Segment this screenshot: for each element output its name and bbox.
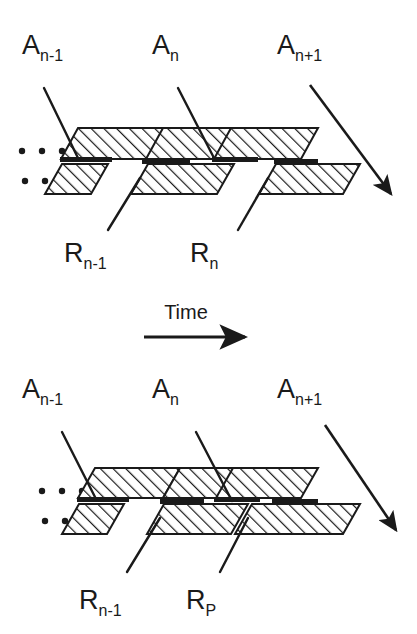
lower-segment-continuous [235,504,360,534]
upper-segment [216,468,318,498]
upper-segments-bottom [78,468,318,498]
label-A-n-plus-1-bottom: An+1 [277,374,322,408]
schematic-diagram: An-1 An An+1 [0,0,417,634]
leader-line-A-n-minus-1 [62,432,96,499]
interface-bar [214,497,260,502]
lower-segment [259,164,360,194]
interface-bar [212,157,258,162]
label-R-n-minus-1-bottom: Rn-1 [79,585,122,619]
interface-bar [272,499,318,504]
lower-segment [147,504,248,534]
interface-bar [142,159,190,164]
lower-segment [131,164,234,194]
upper-segment [214,128,318,159]
interface-bar [77,497,129,502]
label-R-P-bottom: RP [186,585,216,619]
lower-segments-top [45,164,360,194]
leader-line-R-n [238,178,268,230]
interface-bar [274,159,318,164]
label-A-n-bottom: An [152,374,179,408]
panel-bottom: An-1 An An+1 [22,374,396,619]
leader-line-R-n-minus-1 [108,178,140,230]
label-A-n-minus-1-top: An-1 [22,30,63,64]
time-axis: Time [144,301,245,337]
lower-segments-bottom [62,504,360,534]
label-A-n-plus-1-top: An+1 [277,30,322,64]
label-A-n-minus-1-bottom: An-1 [22,374,63,408]
label-R-n-top: Rn [190,238,218,272]
interface-bar [60,157,112,162]
interface-bar [160,499,204,504]
panel-top: An-1 An An+1 [19,30,391,272]
upper-segments-top [61,128,318,159]
lower-segment [62,504,124,534]
label-R-n-minus-1-top: Rn-1 [64,238,107,272]
label-A-n-top: An [152,30,179,64]
leader-line-A-n-minus-1 [44,88,78,158]
leader-line-R-n-minus-1 [127,518,160,572]
time-label: Time [164,301,208,323]
lower-segment [45,164,108,194]
figure-root: An-1 An An+1 [0,0,417,634]
